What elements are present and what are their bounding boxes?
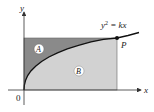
y-axis-label: y xyxy=(19,3,24,13)
point-p-label: P xyxy=(120,40,127,50)
region-b-label: B xyxy=(76,67,81,76)
region-a-label: A xyxy=(35,45,41,54)
curve-equation-label: y2 = kx xyxy=(100,20,127,30)
point-p-marker xyxy=(115,36,119,40)
x-axis-label: x xyxy=(143,85,148,95)
parabola-area-diagram: y x 0 P y2 = kx A B xyxy=(0,0,154,112)
origin-label: 0 xyxy=(16,93,21,103)
